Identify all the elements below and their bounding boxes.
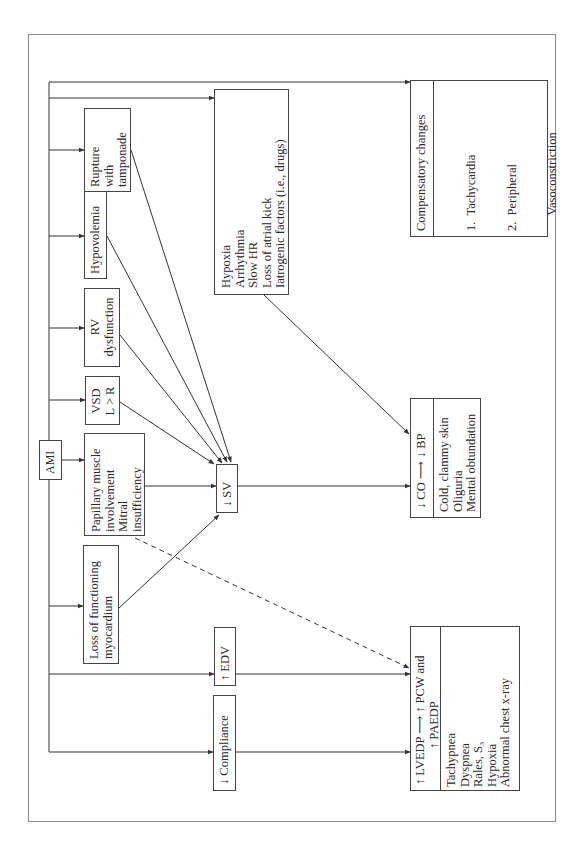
- node-co-header: ↓ CO ⟶ ↓ BP: [415, 433, 429, 509]
- node-item: 2. Peripheral: [506, 132, 520, 231]
- node-sv: ↓ SV: [216, 464, 238, 513]
- node-loss-functioning-myocardium: Loss of functioning myocardium: [83, 545, 119, 664]
- node-item: Rales, S₃: [472, 678, 486, 787]
- node-co-bp: ↓ CO ⟶ ↓ BP Cold, clammy skin Oliguria M…: [410, 398, 481, 518]
- node-label-line: myocardium: [102, 561, 116, 659]
- node-divider: [433, 81, 434, 236]
- node-label-line: insufficiency: [131, 448, 145, 532]
- node-label-line: Hypoxia: [220, 139, 234, 288]
- node-item: 1. Tachycardia: [465, 132, 479, 231]
- node-ami: AMI: [39, 440, 62, 480]
- node-item: Oliguria: [452, 414, 466, 512]
- node-item: Mental obtundation: [465, 414, 479, 512]
- node-label-line: Rupture: [89, 132, 103, 187]
- node-header-line: ↑ PAEDP: [428, 655, 442, 785]
- node-header-line: ↑ LVEDP ⟶ ↑ PCW and: [414, 655, 428, 785]
- node-label-line: Arrhythmia: [234, 139, 248, 288]
- node-item: Abnormal chest x-ray: [499, 678, 513, 787]
- node-papillary-muscle: Papillary muscle involvement Mitral insu…: [84, 433, 145, 536]
- node-label-line: Loss of atrial kick: [261, 139, 275, 288]
- node-rv-dysfunction: RV dysfunction: [84, 288, 120, 367]
- node-hypovolemia: Hypovolemia: [84, 191, 107, 279]
- node-label-line: Hypovolemia: [89, 206, 103, 274]
- node-compensatory-header: Compensatory changes: [415, 115, 429, 231]
- node-label-line: Loss of functioning: [88, 561, 102, 659]
- node-rupture-tamponade: Rupture with tamponade: [84, 108, 131, 192]
- node-vsd: VSD L > R: [85, 376, 120, 425]
- node-label-line: with: [103, 132, 117, 187]
- node-label-line: L > R: [104, 381, 118, 421]
- node-label-line: involvement: [104, 448, 118, 532]
- node-sv-label: ↓ SV: [221, 482, 235, 507]
- node-edv: ↑ EDV: [214, 627, 236, 686]
- node-label-line: VSD: [90, 381, 104, 421]
- node-compliance: ↓ Compliance: [213, 695, 236, 791]
- node-label-line: Iatrogenic factors (i.e., drugs): [274, 139, 288, 288]
- node-item: Tachypnea: [445, 678, 459, 787]
- node-label-line: Slow HR: [247, 139, 261, 288]
- node-label-line: RV: [89, 292, 103, 362]
- node-lvedp: ↑ LVEDP ⟶ ↑ PCW and ↑ PAEDP Tachypnea Dy…: [410, 626, 520, 791]
- node-label-line: tamponade: [116, 132, 130, 187]
- node-label-line: dysfunction: [103, 292, 117, 362]
- node-label-line: Mitral: [117, 448, 131, 532]
- node-ami-label: AMI: [44, 451, 58, 474]
- node-item: Dyspnea: [459, 678, 473, 787]
- node-compliance-label: ↓ Compliance: [218, 715, 232, 785]
- node-item: Hypoxia: [486, 678, 500, 787]
- node-divider: [433, 399, 434, 517]
- node-hypoxia-group: Hypoxia Arrhythmia Slow HR Loss of atria…: [214, 89, 289, 295]
- node-item: Cold, clammy skin: [438, 414, 452, 512]
- node-compensatory-changes: Compensatory changes 1. Tachycardia 2. P…: [410, 80, 548, 237]
- node-item: Vasoconstriction: [546, 132, 560, 231]
- node-edv-label: ↑ EDV: [219, 646, 233, 681]
- node-label-line: Papillary muscle: [90, 448, 104, 532]
